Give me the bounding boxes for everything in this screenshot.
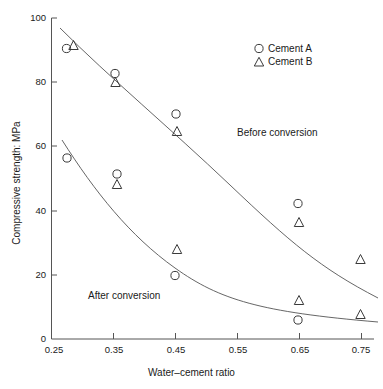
legend-item-cement-a: Cement A [253, 42, 312, 55]
data-point [113, 170, 121, 178]
triangle-marker-icon [253, 55, 268, 68]
x-tick-label-035: 0.35 [105, 345, 124, 355]
data-point [172, 110, 180, 118]
data-point [112, 180, 121, 189]
data-point [294, 218, 303, 227]
chart-figure: 100 80 60 40 20 0 0.25 0.35 0.45 0.55 0.… [0, 0, 383, 389]
annotation-after-conversion: After conversion [88, 291, 160, 301]
x-tick-label-065: 0.65 [291, 345, 310, 355]
plot-area [0, 0, 383, 389]
data-point [294, 199, 302, 207]
data-point [294, 316, 302, 324]
legend-label-cement-a: Cement A [268, 44, 312, 54]
x-tick-label-055: 0.55 [229, 345, 248, 355]
data-point [356, 255, 365, 264]
legend-label-cement-b: Cement B [268, 57, 312, 67]
x-axis-ticks [114, 333, 362, 339]
x-tick-label-075: 0.75 [352, 345, 371, 355]
trend-curve-before [60, 28, 378, 298]
legend: Cement A Cement B [253, 42, 312, 68]
x-tick-label-045: 0.45 [167, 345, 186, 355]
series-cement-b-before [69, 41, 365, 264]
data-point [63, 154, 71, 162]
data-point [294, 296, 303, 305]
data-point [111, 69, 119, 77]
data-point [356, 310, 365, 319]
x-axis-label: Water–cement ratio [0, 368, 383, 378]
y-tick-label-0: 0 [6, 334, 46, 344]
y-tick-label-20: 20 [6, 270, 46, 280]
circle-marker-icon [253, 42, 268, 55]
y-axis-ticks [52, 18, 58, 275]
y-tick-label-80: 80 [6, 77, 46, 87]
data-point [111, 78, 120, 87]
y-tick-label-100: 100 [6, 13, 46, 23]
data-point [172, 127, 181, 136]
legend-item-cement-b: Cement B [253, 55, 312, 68]
data-point [171, 271, 179, 279]
data-point [172, 245, 181, 254]
annotation-before-conversion: Before conversion [237, 128, 318, 138]
y-axis-label: Compressive strength: MPa [12, 103, 22, 263]
x-tick-label-025: 0.25 [45, 345, 64, 355]
series-cement-a-before [62, 44, 302, 207]
